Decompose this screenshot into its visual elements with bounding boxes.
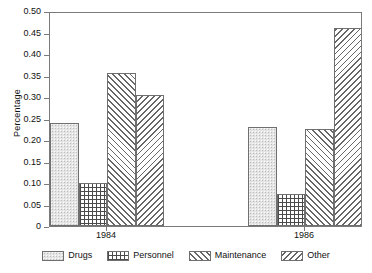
legend-swatch-maintenance	[189, 251, 211, 261]
y-axis-tick-label: 0.10	[23, 178, 41, 189]
legend-swatch-other	[281, 251, 303, 261]
legend-label-personnel: Personnel	[133, 250, 174, 261]
legend-label-drugs: Drugs	[68, 250, 92, 261]
y-axis-tick-label: 0.15	[23, 157, 41, 168]
bar-1984-maintenance	[107, 73, 136, 226]
legend-item-maintenance[interactable]: Maintenance	[189, 250, 267, 261]
bar-1984-personnel	[79, 183, 108, 226]
y-axis-tick-label: 0.20	[23, 135, 41, 146]
y-axis-tick-label: 0	[36, 221, 41, 232]
bar-1984-drugs	[50, 123, 79, 226]
y-axis-tick-label: 0.05	[23, 200, 41, 211]
legend-item-drugs[interactable]: Drugs	[42, 250, 92, 261]
legend-item-other[interactable]: Other	[281, 250, 330, 261]
plot-area	[49, 12, 362, 227]
legend-label-maintenance: Maintenance	[215, 250, 267, 261]
bar-chart-figure: Percentage 00.050.100.150.200.250.300.35…	[0, 0, 372, 273]
bar-1986-personnel	[277, 194, 306, 226]
x-axis-group-label-1986: 1986	[274, 230, 334, 240]
chart-legend: DrugsPersonnelMaintenanceOther	[0, 250, 372, 261]
legend-swatch-personnel	[107, 251, 129, 261]
y-axis-tick-label: 0.35	[23, 71, 41, 82]
y-axis-tick-label: 0.30	[23, 92, 41, 103]
y-axis-tick-label: 0.40	[23, 49, 41, 60]
y-axis-tick-label: 0.25	[23, 114, 41, 125]
bar-1986-drugs	[248, 127, 277, 226]
y-axis-title: Percentage	[12, 63, 22, 163]
bar-1984-other	[136, 95, 165, 226]
y-axis-tick-label: 0.50	[23, 6, 41, 17]
bar-1986-other	[334, 28, 363, 226]
y-axis-tick-mark	[44, 227, 49, 228]
x-axis-group-label-1984: 1984	[76, 230, 136, 240]
bar-1986-maintenance	[305, 129, 334, 226]
y-axis-tick-label: 0.45	[23, 28, 41, 39]
legend-label-other: Other	[307, 250, 330, 261]
legend-item-personnel[interactable]: Personnel	[107, 250, 174, 261]
legend-swatch-drugs	[42, 251, 64, 261]
